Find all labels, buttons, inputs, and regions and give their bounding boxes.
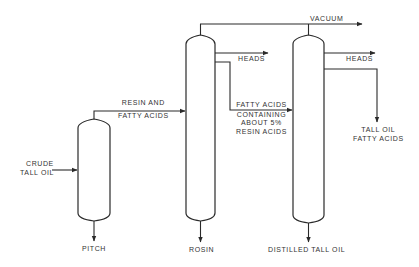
label-line: CONTAINING bbox=[236, 111, 287, 120]
rosin-column bbox=[186, 35, 215, 221]
distilled-tall-oil-label: DISTILLED TALL OIL bbox=[268, 246, 345, 255]
vacuum-label: VACUUM bbox=[310, 15, 343, 24]
heads-label-1: HEADS bbox=[238, 55, 265, 64]
tall-oil-fatty-acids-label: TALL OIL FATTY ACIDS bbox=[353, 126, 404, 143]
rosin-label: ROSIN bbox=[189, 246, 214, 255]
label-line: RESIN ACIDS bbox=[236, 128, 287, 137]
label-line: FATTY ACIDS bbox=[118, 112, 169, 121]
label-line: ABOUT 5% bbox=[236, 119, 287, 128]
label-line: RESIN AND bbox=[118, 99, 169, 108]
pitch-label: PITCH bbox=[82, 245, 106, 254]
pitch-column bbox=[78, 119, 110, 221]
tofa-stream bbox=[324, 69, 377, 122]
heads-label-2: HEADS bbox=[346, 55, 373, 64]
label-line: TALL OIL bbox=[20, 169, 54, 178]
fatty-acids-resin-label: FATTY ACIDS CONTAINING ABOUT 5% RESIN AC… bbox=[236, 101, 287, 136]
label-line: TALL OIL bbox=[353, 126, 404, 135]
fatty-acid-column bbox=[293, 35, 324, 223]
label-line: FATTY ACIDS bbox=[236, 101, 287, 110]
label-line: CRUDE bbox=[20, 160, 54, 169]
vacuum-line bbox=[201, 24, 363, 35]
resin-fatty-acids-label: RESIN AND FATTY ACIDS bbox=[118, 99, 169, 120]
crude-tall-oil-label: CRUDE TALL OIL bbox=[20, 160, 54, 177]
label-line: FATTY ACIDS bbox=[353, 135, 404, 144]
